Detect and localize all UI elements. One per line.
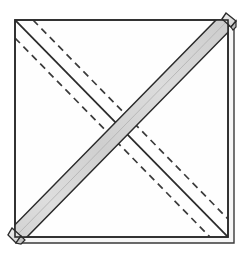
- fold-diagram-canvas: [0, 0, 249, 255]
- fold-diagram-figure: [0, 0, 249, 255]
